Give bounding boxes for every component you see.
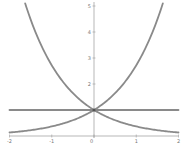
x-tick-label: -2 (7, 138, 12, 144)
y-tick-label: 4 (88, 29, 91, 35)
axes (10, 2, 179, 138)
function-plot: -2-10122345 (0, 0, 190, 149)
y-tick-label: 3 (88, 55, 91, 61)
x-tick-label: 0 (90, 138, 93, 144)
y-tick-label: 5 (88, 3, 91, 9)
x-tick-label: 1 (135, 138, 138, 144)
intersection-point (92, 108, 95, 111)
y-tick-label: 2 (88, 81, 91, 87)
x-tick-label: -1 (49, 138, 54, 144)
x-tick-label: 2 (177, 138, 180, 144)
